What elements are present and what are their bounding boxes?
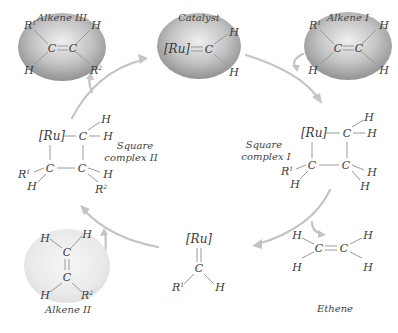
atom-c: C	[79, 130, 88, 143]
atom-h: H	[366, 166, 377, 179]
atom-r2: R2	[80, 289, 93, 302]
catalyst-label: Catalyst	[178, 12, 221, 23]
arrowhead	[138, 54, 148, 64]
atom-c: C	[343, 127, 352, 140]
atom-ru: [Ru]	[39, 129, 65, 143]
alkene-ii-label: Alkene II	[44, 304, 92, 315]
atom-h: H	[291, 229, 302, 242]
atom-r2: R2	[89, 64, 102, 77]
metathesis-cycle-diagram: Alkene III C C R1 H H R2 Catalyst [Ru] C…	[0, 0, 398, 333]
atom-ru: [Ru]	[301, 126, 327, 140]
atom-h: H	[362, 261, 373, 274]
atom-h: H	[90, 19, 101, 32]
alkene-ii-blob	[24, 229, 110, 303]
arrowhead	[252, 239, 262, 249]
atom-h: H	[214, 281, 225, 294]
atom-h: H	[102, 168, 113, 181]
atom-c: C	[342, 159, 351, 172]
atom-h: H	[228, 66, 239, 79]
atom-ru: [Ru]	[186, 232, 212, 246]
square-complex-ii-label-line1: Square	[117, 140, 153, 151]
atom-c: C	[205, 43, 214, 56]
atom-h: H	[102, 130, 113, 143]
atom-h: H	[26, 180, 37, 193]
arrowhead	[318, 230, 326, 238]
arrow-catalyst-to-square1	[246, 55, 318, 98]
atom-c: C	[48, 42, 57, 55]
atom-h: H	[362, 229, 373, 242]
atom-h: H	[81, 228, 92, 241]
catalyst: Catalyst [Ru] C H H	[157, 12, 241, 79]
atom-c: C	[46, 162, 55, 175]
atom-c: C	[355, 42, 364, 55]
atom-h: H	[228, 26, 239, 39]
atom-h: H	[363, 111, 374, 124]
square-complex-i: [Ru] C H H C C R1 H H H Square complex I	[241, 111, 377, 193]
atom-h: H	[359, 180, 370, 193]
square-complex-i-label-line2: complex I	[241, 151, 291, 162]
alkene-iii-label: Alkene III	[36, 12, 88, 23]
atom-h: H	[291, 261, 302, 274]
atom-h: H	[366, 127, 377, 140]
atom-c: C	[340, 242, 349, 255]
atom-r1: R1	[280, 165, 293, 178]
ethene-label: Ethene	[316, 303, 353, 314]
atom-r1: R1	[171, 281, 184, 294]
atom-h: H	[378, 19, 389, 32]
square-complex-ii-label-line2: complex II	[104, 152, 158, 163]
atom-ru: [Ru]	[164, 42, 190, 56]
alkene-i-label: Alkene I	[326, 12, 370, 23]
atom-h: H	[289, 178, 300, 191]
arrowhead	[292, 65, 300, 72]
atom-c: C	[78, 162, 87, 175]
atom-c: C	[69, 42, 78, 55]
ru-carbene-intermediate: [Ru] C R1 H	[171, 232, 225, 294]
atom-c: C	[63, 271, 72, 284]
atom-r2: R2	[94, 183, 107, 196]
atom-h: H	[100, 113, 111, 126]
alkene-iii: Alkene III C C R1 H H R2	[18, 12, 106, 81]
atom-h: H	[39, 289, 50, 302]
atom-h: H	[23, 64, 34, 77]
square-complex-i-label-line1: Square	[246, 139, 282, 150]
atom-h: H	[307, 64, 318, 77]
square-complex-ii: [Ru] C H H C C R1 H H R2 Square complex …	[17, 113, 159, 196]
atom-c: C	[308, 159, 317, 172]
atom-h: H	[378, 64, 389, 77]
atom-c: C	[63, 246, 72, 259]
atom-c: C	[334, 42, 343, 55]
atom-c: C	[315, 242, 324, 255]
arrowhead	[312, 93, 322, 104]
ethene: C C H H H H Ethene	[291, 229, 373, 314]
atom-h: H	[39, 232, 50, 245]
atom-c: C	[195, 262, 204, 275]
alkene-i: Alkene I C C R1 H H H	[304, 12, 392, 80]
alkene-ii: H H C C H R2 Alkene II	[24, 228, 110, 315]
